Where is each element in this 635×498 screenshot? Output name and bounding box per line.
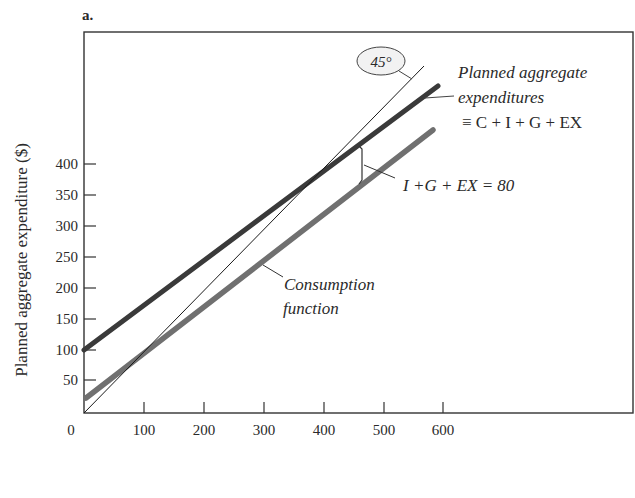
y-tick-label: 100 (56, 342, 79, 358)
forty-five-degree-line (84, 66, 424, 413)
gap-label-leader (364, 165, 395, 178)
x-tick-label: 300 (253, 422, 276, 438)
y-tick-label: 350 (56, 187, 79, 203)
x-tick-label: 100 (133, 422, 156, 438)
gap-bracket (359, 146, 362, 184)
angle-label: 45° (371, 54, 392, 70)
x-tick-label: 200 (193, 422, 216, 438)
y-tick-label: 50 (63, 372, 78, 388)
consumption-label-leader (263, 265, 283, 277)
y-axis-tick-labels: 400 350 300 250 200 150 100 50 (56, 156, 79, 388)
x-axis-tick-labels: 0 100 200 300 400 500 600 (67, 422, 454, 438)
y-tick-label: 400 (56, 156, 79, 172)
gap-label: I +G + EX = 80 (402, 176, 515, 195)
chart-canvas: a. 400 350 300 250 200 150 100 50 0 100 … (0, 0, 635, 498)
ae-label-line1: Planned aggregate (457, 63, 588, 82)
ae-label-line3: ≡ C + I + G + EX (462, 113, 582, 132)
x-tick-label: 0 (67, 422, 75, 438)
consumption-label-line1: Consumption (284, 275, 375, 294)
ae-label-line2: expenditures (458, 88, 545, 107)
x-axis-ticks (144, 402, 443, 413)
plot-frame (84, 32, 633, 413)
y-tick-label: 300 (56, 218, 79, 234)
x-tick-label: 400 (313, 422, 336, 438)
panel-label: a. (82, 7, 94, 23)
ae-label-leader (425, 96, 454, 98)
consumption-label-line2: function (283, 299, 339, 318)
y-tick-label: 200 (56, 280, 79, 296)
x-tick-label: 500 (373, 422, 396, 438)
aggregate-expenditure-line (84, 86, 438, 350)
x-tick-label: 600 (432, 422, 455, 438)
angle-label-leader (399, 71, 412, 79)
y-tick-label: 150 (56, 311, 79, 327)
y-axis-title: Planned aggregate expenditure ($) (12, 143, 31, 377)
y-tick-label: 250 (56, 249, 79, 265)
